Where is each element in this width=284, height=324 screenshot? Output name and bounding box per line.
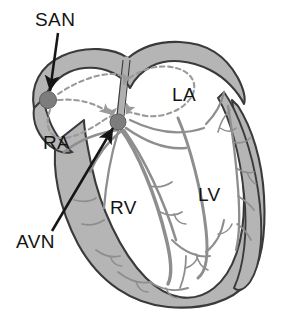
sinoatrial-node xyxy=(40,92,57,109)
label-lv: LV xyxy=(198,185,221,204)
left-atrium-floor xyxy=(130,120,204,132)
heart-diagram-canvas xyxy=(0,0,284,324)
middle-internodal-tract xyxy=(58,100,110,114)
label-ra: RA xyxy=(43,133,70,152)
atrium-outer-outline xyxy=(33,42,245,110)
label-san: SAN xyxy=(35,10,75,29)
label-la: LA xyxy=(172,85,196,104)
anterior-internodal-tract xyxy=(58,74,125,94)
heart-conduction-diagram: SAN LA RA LV RV AVN xyxy=(0,0,284,324)
lv-fiber-4 xyxy=(206,220,224,252)
atrioventricular-node xyxy=(110,114,126,130)
label-rv: RV xyxy=(110,198,137,217)
label-avn: AVN xyxy=(16,232,55,251)
